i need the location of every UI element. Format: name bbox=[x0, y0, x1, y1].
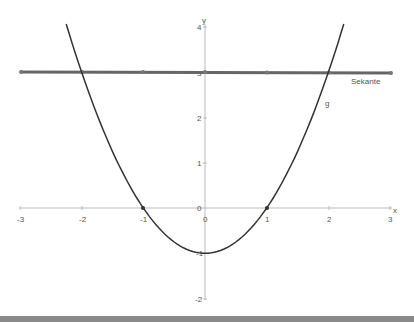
y-tick-label: -2 bbox=[195, 295, 203, 304]
root-point bbox=[141, 206, 145, 210]
x-tick-label: -3 bbox=[17, 215, 25, 224]
x-tick-label: 1 bbox=[265, 215, 270, 224]
x-axis-label: x bbox=[393, 206, 397, 215]
x-tick-label: -1 bbox=[140, 215, 148, 224]
x-tick-label: -2 bbox=[79, 215, 87, 224]
y-tick-label: 4 bbox=[197, 23, 202, 32]
x-tick-label: 0 bbox=[203, 215, 208, 224]
y-tick-label: 0 bbox=[197, 204, 202, 213]
y-axis-label: y bbox=[202, 16, 206, 25]
secant-label: Sekante bbox=[351, 77, 381, 86]
x-tick-label: 3 bbox=[388, 215, 393, 224]
y-tick-label: 2 bbox=[197, 114, 202, 123]
root-point bbox=[265, 206, 269, 210]
y-tick-label: 1 bbox=[197, 159, 202, 168]
bottom-bar bbox=[0, 316, 414, 322]
function-plot: x y -3 -2 -1 0 1 2 3 -2 -1 0 1 2 3 4 bbox=[0, 0, 414, 316]
x-tick-label: 2 bbox=[327, 215, 332, 224]
curve-label: g bbox=[325, 99, 329, 108]
